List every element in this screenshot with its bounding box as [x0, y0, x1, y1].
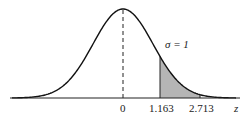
tick-label-2713: 2.713 [189, 102, 214, 114]
tick-label-1163: 1.163 [149, 102, 174, 114]
normal-curve [12, 9, 236, 98]
axis-label-z: z [234, 102, 238, 114]
chart-canvas [0, 0, 250, 117]
shaded-region [160, 56, 200, 98]
sigma-annotation: σ = 1 [165, 38, 189, 50]
tick-label-0: 0 [120, 102, 126, 114]
normal-distribution-figure: σ = 1 0 1.163 2.713 z [0, 0, 250, 117]
